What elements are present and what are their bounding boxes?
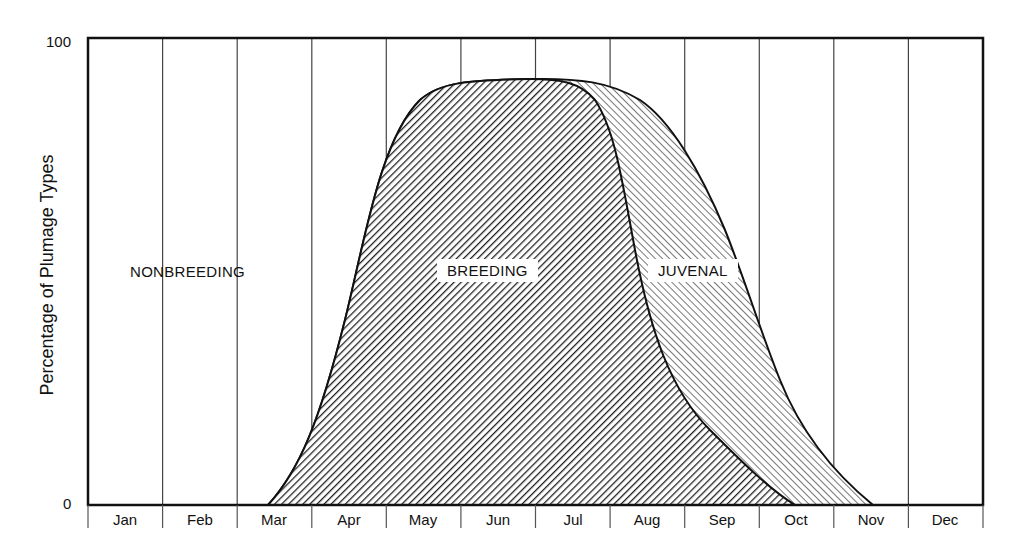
y-tick-100: 100 [46,33,71,50]
x-tick-sep: Sep [685,511,759,528]
x-tick-dec: Dec [908,511,982,528]
x-tick-nov: Nov [834,511,908,528]
x-tick-aug: Aug [610,511,684,528]
x-tick-jun: Jun [461,511,535,528]
juvenal-label: JUVENAL [648,259,738,282]
y-axis-label: Percentage of Plumage Types [37,155,58,396]
x-tick-apr: Apr [312,511,386,528]
nonbreeding-label: NONBREEDING [130,263,245,280]
x-tick-feb: Feb [163,511,237,528]
x-tick-jan: Jan [88,511,162,528]
x-tick-jul: Jul [536,511,610,528]
x-tick-oct: Oct [759,511,833,528]
x-tick-mar: Mar [237,511,311,528]
x-tick-may: May [386,511,460,528]
breeding-label: BREEDING [437,259,538,282]
y-tick-0: 0 [63,495,71,512]
